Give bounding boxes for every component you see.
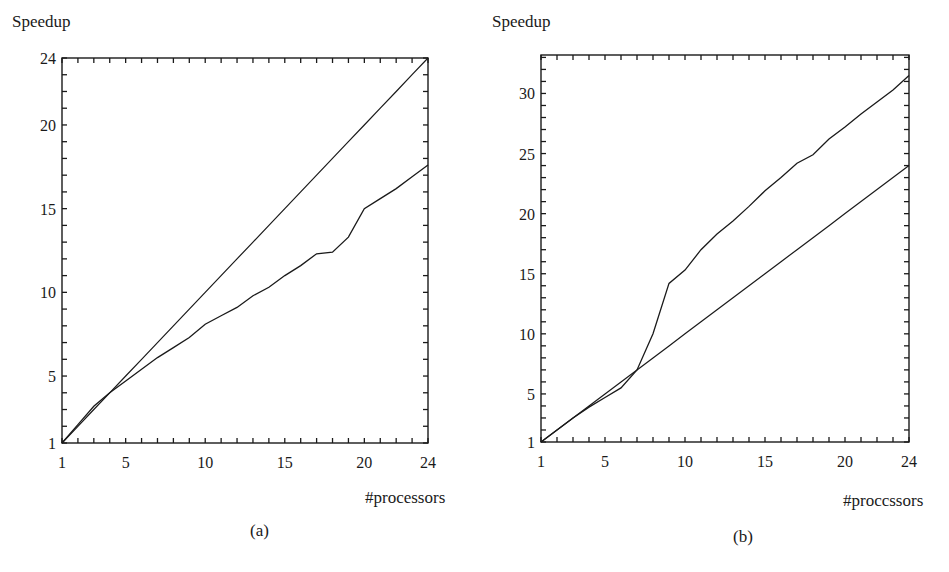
axis-ticks xyxy=(541,55,909,442)
y-axis-label: Speedup xyxy=(12,12,71,31)
plot-frame xyxy=(541,55,909,442)
y-tick-label: 30 xyxy=(519,85,535,102)
y-tick-label: 10 xyxy=(40,284,56,301)
x-tick-label: 1 xyxy=(58,454,66,471)
y-tick-label: 15 xyxy=(40,201,56,218)
y-tick-label: 24 xyxy=(40,50,56,67)
y-tick-label: 20 xyxy=(519,206,535,223)
figure: Speedup 1510152024 1510152024 #processor… xyxy=(0,0,949,572)
x-tick-label: 5 xyxy=(122,454,130,471)
y-axis-label: Speedup xyxy=(492,12,551,31)
x-tick-label: 5 xyxy=(601,453,609,470)
x-axis-label: #processors xyxy=(365,488,445,507)
y-tick-label: 20 xyxy=(40,117,56,134)
chart-panel-b: Speedup 151015202530 1510152024 #proccss… xyxy=(492,12,923,546)
x-tick-label: 20 xyxy=(356,454,372,471)
linear-speedup-line xyxy=(541,166,909,442)
measured-speedup-line xyxy=(62,165,428,443)
x-tick-label: 24 xyxy=(420,454,436,471)
x-tick-label: 10 xyxy=(677,453,693,470)
y-tick-label: 5 xyxy=(527,386,535,403)
y-tick-label: 1 xyxy=(527,434,535,451)
y-tick-label: 5 xyxy=(48,368,56,385)
x-tick-label: 20 xyxy=(837,453,853,470)
panel-caption: (b) xyxy=(733,527,753,546)
panel-caption: (a) xyxy=(250,521,269,540)
x-tick-labels: 1510152024 xyxy=(537,453,917,470)
x-axis-label: #proccssors xyxy=(843,491,923,510)
y-tick-labels: 151015202530 xyxy=(519,85,535,451)
linear-speedup-line xyxy=(62,58,428,443)
y-tick-label: 25 xyxy=(519,146,535,163)
x-tick-label: 15 xyxy=(757,453,773,470)
y-tick-label: 1 xyxy=(48,435,56,452)
x-tick-label: 24 xyxy=(901,453,917,470)
y-tick-label: 15 xyxy=(519,266,535,283)
measured-speedup-line xyxy=(541,75,909,442)
chart-panel-a: Speedup 1510152024 1510152024 #processor… xyxy=(12,12,445,540)
y-tick-labels: 1510152024 xyxy=(40,50,56,452)
x-tick-label: 10 xyxy=(197,454,213,471)
x-tick-label: 15 xyxy=(277,454,293,471)
y-tick-label: 10 xyxy=(519,326,535,343)
x-tick-labels: 1510152024 xyxy=(58,454,436,471)
x-tick-label: 1 xyxy=(537,453,545,470)
